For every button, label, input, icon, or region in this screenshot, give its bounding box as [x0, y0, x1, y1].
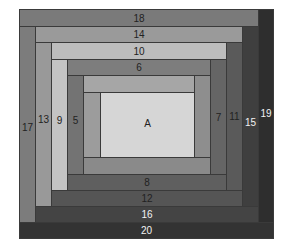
strip-label: 18: [133, 13, 144, 24]
strip-label: 14: [133, 29, 144, 40]
strip-label: 12: [141, 193, 152, 204]
strip-17: 17: [19, 26, 36, 223]
strip-7: 7: [210, 59, 227, 191]
center-label: A: [144, 118, 151, 129]
strip-19: 19: [258, 9, 274, 223]
strip-label: 20: [141, 225, 152, 236]
strip-16: 16: [35, 206, 259, 223]
strip-6: 6: [67, 59, 211, 76]
strip-10: 10: [51, 42, 227, 60]
strip-9: 9: [51, 59, 68, 191]
strip-8: 8: [67, 174, 227, 191]
strip-label: 11: [229, 111, 239, 122]
strip-4: [83, 157, 211, 175]
strip-label: 16: [141, 209, 152, 220]
strip-5: 5: [67, 75, 84, 175]
strip-label: 7: [216, 112, 222, 123]
strip-label: 8: [144, 177, 150, 188]
strip-label: 5: [73, 115, 79, 126]
strip-20: 20: [19, 222, 274, 239]
strip-1: [83, 75, 195, 93]
strip-label: 9: [57, 115, 63, 126]
strip-13: 13: [35, 42, 52, 207]
strip-2: [194, 75, 211, 158]
strip-label: 19: [260, 108, 271, 119]
strip-15: 15: [242, 26, 259, 207]
strip-label: 13: [38, 114, 49, 125]
strip-label: 15: [245, 117, 256, 128]
strip-label: 17: [22, 122, 33, 133]
strip-3: [83, 92, 101, 158]
center-block-a: A: [100, 92, 195, 158]
strip-label: 6: [136, 62, 142, 73]
strip-label: 10: [133, 46, 144, 57]
strip-18: 18: [19, 9, 259, 27]
strip-11: 11: [226, 42, 243, 207]
strip-12: 12: [51, 190, 243, 207]
strip-14: 14: [35, 26, 243, 43]
